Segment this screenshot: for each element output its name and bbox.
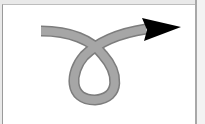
loop-path-outline [41,29,146,100]
looped-arrow-icon [0,0,205,124]
arrowhead-icon [142,18,181,41]
